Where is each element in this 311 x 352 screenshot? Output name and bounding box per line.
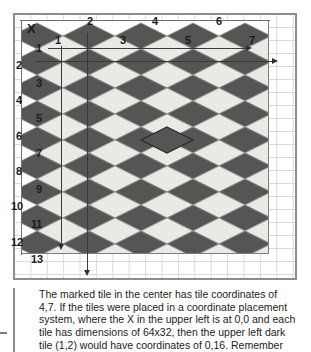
arrow-col2-down-head	[84, 270, 90, 276]
arrow-row2-right	[35, 61, 273, 62]
top-axis-label-2: 2	[87, 16, 93, 27]
arrow-row2-right-head	[272, 58, 278, 64]
left-axis-label-6: 6	[16, 131, 22, 142]
horizontal-axis-line	[20, 20, 270, 21]
left-axis-label-1: 1	[36, 43, 42, 54]
origin-x-marker: X	[27, 23, 35, 34]
isometric-tile-box	[21, 20, 269, 254]
left-axis-label-7: 7	[36, 148, 42, 159]
arrow-row1-right	[48, 48, 247, 49]
left-axis-label-2: 2	[16, 60, 22, 71]
left-axis-label-4: 4	[16, 95, 22, 106]
caption-block: The marked tile in the center has tile c…	[13, 288, 297, 352]
arrow-row1-right-head	[246, 45, 252, 51]
top-axis-label-4: 4	[152, 16, 158, 27]
left-axis-label-13: 13	[31, 254, 43, 265]
isometric-tile-svg	[22, 21, 269, 254]
left-axis-label-5: 5	[36, 113, 42, 124]
caption-tick-mark	[0, 332, 7, 334]
arrow-col1-down	[61, 46, 62, 245]
left-axis-label-12: 12	[11, 237, 23, 248]
top-axis-label-5: 5	[185, 35, 191, 46]
left-axis-label-10: 10	[11, 201, 23, 212]
caption-text: The marked tile in the center has tile c…	[39, 288, 297, 352]
arrow-col2-down	[87, 33, 88, 271]
left-axis-label-8: 8	[16, 166, 22, 177]
arrow-col1-down-head	[58, 244, 64, 250]
top-axis-label-6: 6	[216, 16, 222, 27]
left-axis-label-3: 3	[36, 78, 42, 89]
left-axis-label-11: 11	[31, 219, 42, 230]
left-axis-label-9: 9	[36, 184, 42, 195]
top-axis-label-3: 3	[120, 35, 126, 46]
top-axis-label-1: 1	[55, 35, 61, 46]
